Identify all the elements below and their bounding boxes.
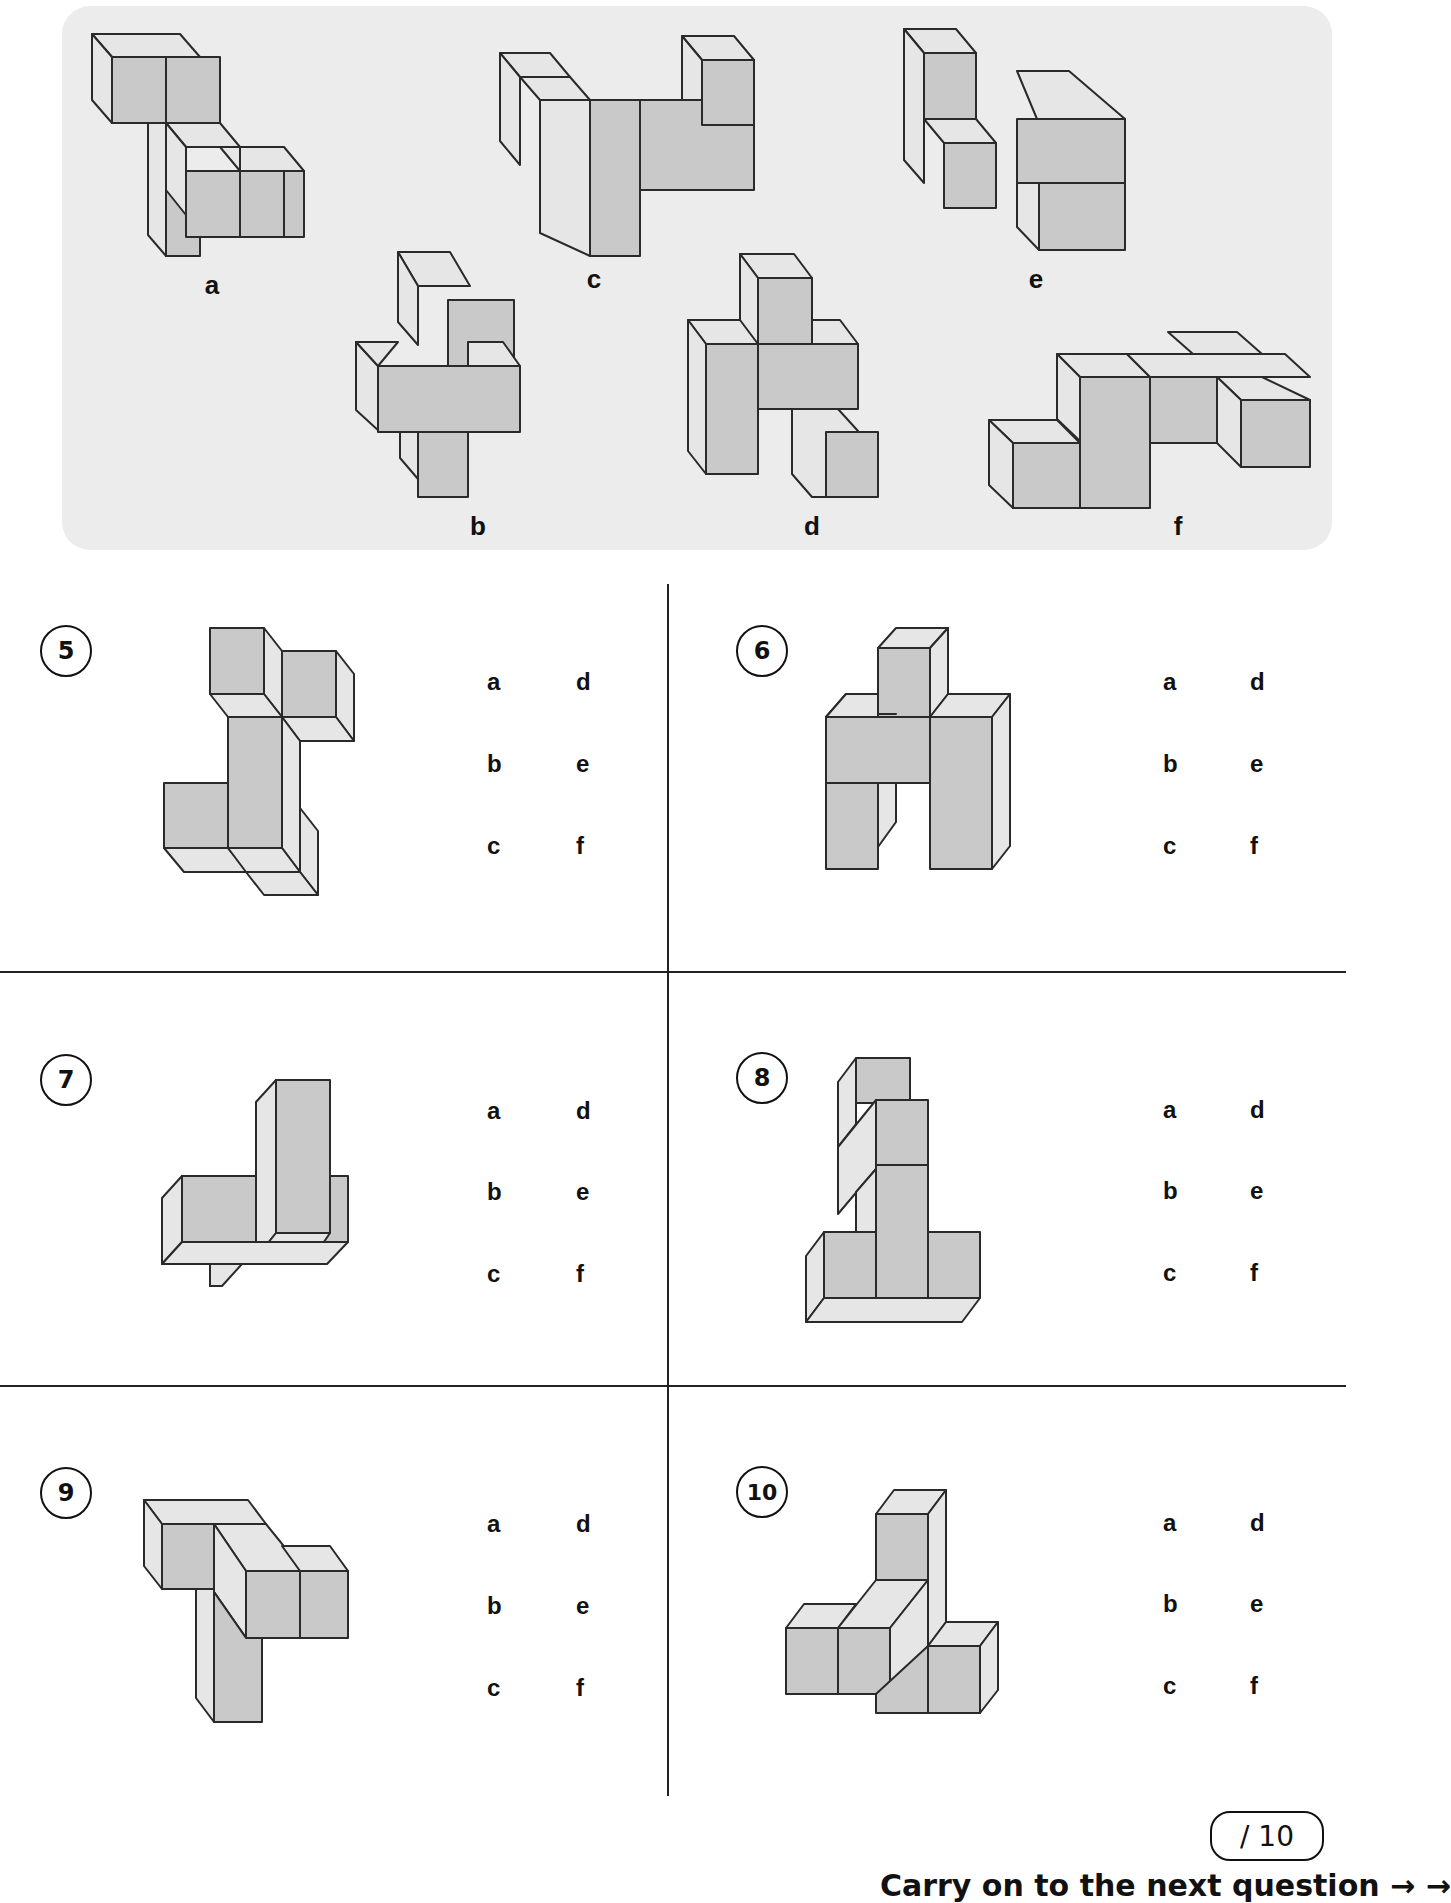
- figure-q8: [806, 1058, 980, 1322]
- question-number-7: 7: [40, 1054, 92, 1106]
- figure-f: [989, 332, 1310, 508]
- choice-b[interactable]: b: [1163, 1590, 1178, 1618]
- choice-e[interactable]: e: [576, 1592, 589, 1620]
- choice-a[interactable]: a: [1163, 668, 1176, 696]
- figure-q5: [164, 628, 354, 895]
- choice-f[interactable]: f: [576, 1674, 584, 1702]
- question-number-6: 6: [736, 625, 788, 677]
- question-number-9: 9: [40, 1467, 92, 1519]
- choice-e[interactable]: e: [1250, 750, 1263, 778]
- figure-b: [356, 252, 520, 497]
- choice-d[interactable]: d: [1250, 1509, 1265, 1537]
- choice-b[interactable]: b: [487, 1592, 502, 1620]
- option-label-b: b: [470, 511, 486, 542]
- choice-a[interactable]: a: [1163, 1096, 1176, 1124]
- score-box: / 10: [1210, 1811, 1324, 1861]
- figure-a: [92, 34, 304, 256]
- figure-q10: [786, 1490, 998, 1713]
- figure-q7: [162, 1080, 348, 1286]
- choice-d[interactable]: d: [1250, 668, 1265, 696]
- grid-divider-row2: [0, 1385, 1346, 1387]
- choice-d[interactable]: d: [576, 1097, 591, 1125]
- next-question-prompt: Carry on to the next question → →: [880, 1868, 1451, 1903]
- figure-q9: [144, 1500, 348, 1722]
- choice-a[interactable]: a: [1163, 1509, 1176, 1537]
- grid-divider-vertical: [667, 584, 669, 1796]
- choice-f[interactable]: f: [576, 832, 584, 860]
- question-number-10: 10: [736, 1466, 788, 1518]
- choice-c[interactable]: c: [1163, 832, 1176, 860]
- choice-e[interactable]: e: [1250, 1177, 1263, 1205]
- choice-c[interactable]: c: [1163, 1672, 1176, 1700]
- choice-b[interactable]: b: [1163, 750, 1178, 778]
- choice-d[interactable]: d: [576, 668, 591, 696]
- choice-f[interactable]: f: [1250, 1672, 1258, 1700]
- option-label-c: c: [587, 264, 601, 295]
- choice-c[interactable]: c: [487, 1674, 500, 1702]
- choice-e[interactable]: e: [1250, 1590, 1263, 1618]
- question-number-8: 8: [736, 1052, 788, 1104]
- choice-b[interactable]: b: [487, 750, 502, 778]
- choice-e[interactable]: e: [576, 750, 589, 778]
- choice-b[interactable]: b: [1163, 1177, 1178, 1205]
- figure-e: [904, 29, 1125, 250]
- choice-d[interactable]: d: [1250, 1096, 1265, 1124]
- option-label-d: d: [804, 511, 820, 542]
- choice-f[interactable]: f: [1250, 832, 1258, 860]
- option-label-a: a: [205, 270, 219, 301]
- grid-divider-row1: [0, 971, 1346, 973]
- option-label-e: e: [1029, 264, 1043, 295]
- figure-c: [500, 36, 754, 256]
- choice-e[interactable]: e: [576, 1178, 589, 1206]
- choice-c[interactable]: c: [487, 832, 500, 860]
- option-label-f: f: [1174, 511, 1183, 542]
- choice-f[interactable]: f: [1250, 1259, 1258, 1287]
- figure-q6: [826, 628, 1010, 869]
- figure-d: [688, 254, 878, 497]
- question-number-5: 5: [40, 625, 92, 677]
- choice-c[interactable]: c: [1163, 1259, 1176, 1287]
- choice-a[interactable]: a: [487, 668, 500, 696]
- choice-c[interactable]: c: [487, 1260, 500, 1288]
- choice-a[interactable]: a: [487, 1097, 500, 1125]
- choice-d[interactable]: d: [576, 1510, 591, 1538]
- choice-a[interactable]: a: [487, 1510, 500, 1538]
- choice-b[interactable]: b: [487, 1178, 502, 1206]
- choice-f[interactable]: f: [576, 1260, 584, 1288]
